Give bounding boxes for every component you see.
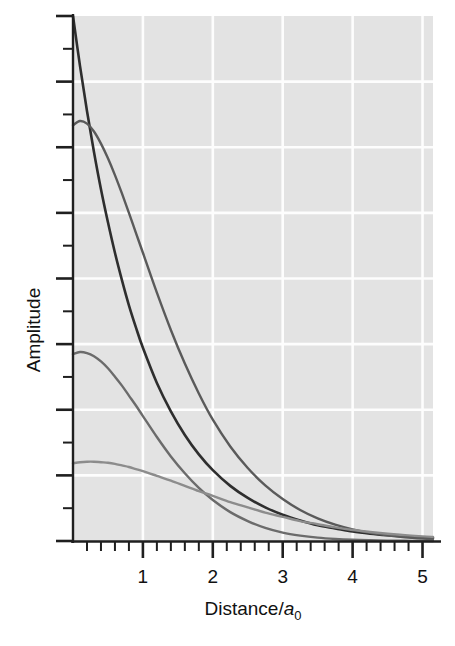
x-axis-label-main: Distance/ [204,598,284,619]
x-tick-label: 2 [208,566,219,587]
x-tick-label: 4 [347,566,358,587]
y-axis-ticks [56,16,72,541]
x-axis-tick-labels: 12345 [138,566,428,587]
x-axis-label-subscript: 0 [294,608,301,623]
chart-figure: 12345 Distance/a0 Amplitude [0,0,455,646]
x-axis-ticks [87,542,423,558]
x-tick-label: 3 [277,566,288,587]
x-axis-label: Distance/a0 [204,598,301,623]
x-tick-label: 1 [138,566,149,587]
x-axis-label-italic: a [284,598,295,619]
y-axis-label: Amplitude [23,288,44,373]
chart-canvas: 12345 Distance/a0 Amplitude [0,0,455,646]
x-tick-label: 5 [417,566,428,587]
